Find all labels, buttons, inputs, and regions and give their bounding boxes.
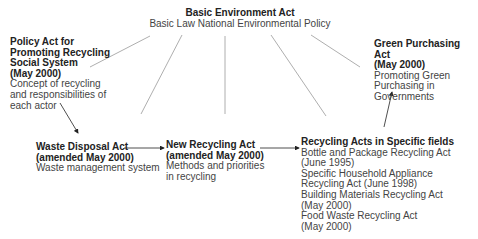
node-green-purchasing-act: Green Purchasing Act (May 2000) Promotin… bbox=[374, 39, 474, 103]
node-title-line: New Recycling Act bbox=[166, 140, 266, 151]
line-basic-waste bbox=[141, 35, 182, 114]
line-basic-green bbox=[311, 35, 360, 67]
node-description-line: each actor bbox=[10, 101, 130, 112]
node-description-line: Waste management system bbox=[36, 163, 166, 174]
node-waste-disposal-act: Waste Disposal Act (amended May 2000) Wa… bbox=[36, 142, 166, 174]
node-new-recycling-act: New Recycling Act (amended May 2000) Met… bbox=[166, 140, 266, 182]
node-description: Basic Law National Environmental Policy bbox=[140, 19, 340, 30]
act-list-line: Building Materials Recycling Act bbox=[301, 190, 476, 201]
act-list-line: (May 2000) bbox=[301, 222, 476, 233]
line-basic-specific bbox=[271, 35, 326, 116]
node-title-line: Waste Disposal Act bbox=[36, 142, 166, 153]
node-description-line: Governments bbox=[374, 92, 474, 103]
node-basic-environment-act: Basic Environment Act Basic Law National… bbox=[140, 8, 340, 29]
node-title: Basic Environment Act bbox=[140, 8, 340, 19]
node-title: Recycling Acts in Specific fields bbox=[301, 137, 476, 148]
node-title-line: Green Purchasing Act bbox=[374, 39, 474, 60]
node-policy-act: Policy Act for Promoting Recycling Socia… bbox=[10, 37, 130, 111]
node-title-line: Policy Act for bbox=[10, 37, 130, 48]
node-specific-recycling-acts: Recycling Acts in Specific fields Bottle… bbox=[301, 137, 476, 232]
node-description-line: and responsibilities of bbox=[10, 90, 130, 101]
node-description-line: in recycling bbox=[166, 172, 266, 183]
